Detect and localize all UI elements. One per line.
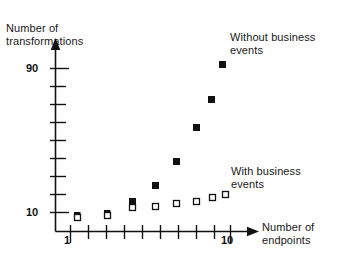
data-point [105, 213, 111, 219]
x-axis-title: Number of endpoints [262, 221, 314, 247]
data-point [173, 158, 180, 165]
data-point [210, 195, 216, 201]
series-without-business-events [74, 61, 226, 219]
data-point [174, 201, 180, 207]
data-point [219, 61, 226, 68]
chart-figure: Number of transformations Number of endp… [0, 0, 340, 256]
y-axis-tick-label-10: 10 [26, 206, 38, 218]
series-annotation-without-business-events: Without business events [230, 31, 315, 57]
x-axis-tick-label-1: 1 [64, 234, 70, 246]
data-point [153, 204, 159, 210]
y-axis-ticks [50, 69, 69, 213]
x-axis-tick-label-10: 10 [221, 234, 233, 246]
data-point [193, 124, 200, 131]
data-point [208, 96, 215, 103]
data-point [152, 182, 159, 189]
series-annotation-with-business-events: With business events [231, 165, 301, 191]
data-point [130, 205, 136, 211]
data-point [194, 199, 200, 205]
data-point [75, 215, 81, 221]
x-axis-ticks [71, 225, 231, 243]
series-with-business-events [75, 192, 229, 221]
y-axis-tick-label-90: 90 [26, 62, 38, 74]
data-point [223, 192, 229, 198]
y-axis-title: Number of transformations [6, 22, 83, 48]
y-axis [51, 38, 61, 232]
